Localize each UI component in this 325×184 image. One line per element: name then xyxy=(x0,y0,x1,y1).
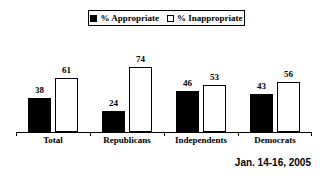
chart-legend: % Appropriate % Inappropriate xyxy=(88,10,245,26)
survey-date-annotation: Jan. 14-16, 2005 xyxy=(235,158,311,168)
bar-inappropriate-democrats: 56 xyxy=(277,40,300,132)
bar-rect-inappropriate xyxy=(277,82,300,132)
bar-rect-appropriate xyxy=(28,98,51,132)
category-label-total: Total xyxy=(43,136,63,145)
bar-value-label: 43 xyxy=(257,82,266,91)
bar-appropriate-democrats: 43 xyxy=(250,40,273,132)
category-axis: Total Republicans Independents Democrats xyxy=(16,136,312,150)
bar-value-label: 74 xyxy=(136,55,145,64)
bar-value-label: 46 xyxy=(183,79,192,88)
bar-appropriate-republicans: 24 xyxy=(102,40,125,132)
bar-value-label: 53 xyxy=(210,73,219,82)
plot-area: 38 61 24 74 46 xyxy=(16,40,312,133)
bar-group-total: 38 61 xyxy=(16,40,90,132)
category-label-independents: Independents xyxy=(175,136,227,145)
bar-value-label: 56 xyxy=(284,70,293,79)
bar-rect-appropriate xyxy=(176,91,199,132)
bar-value-label: 24 xyxy=(109,99,118,108)
bar-appropriate-independents: 46 xyxy=(176,40,199,132)
bar-rect-inappropriate xyxy=(55,78,78,132)
legend-label-appropriate: % Appropriate xyxy=(100,14,159,23)
bar-value-label: 38 xyxy=(35,86,44,95)
legend-label-inappropriate: % Inappropriate xyxy=(177,14,243,23)
bar-chart: % Appropriate % Inappropriate 38 61 xyxy=(0,0,325,184)
legend-swatch-inappropriate-icon xyxy=(167,15,174,22)
bar-inappropriate-republicans: 74 xyxy=(129,40,152,132)
bar-inappropriate-independents: 53 xyxy=(203,40,226,132)
legend-item-inappropriate: % Inappropriate xyxy=(167,14,243,23)
legend-item-appropriate: % Appropriate xyxy=(90,14,159,23)
bar-group-democrats: 43 56 xyxy=(238,40,312,132)
legend-swatch-appropriate-icon xyxy=(90,15,97,22)
bar-appropriate-total: 38 xyxy=(28,40,51,132)
bar-inappropriate-total: 61 xyxy=(55,40,78,132)
bar-value-label: 61 xyxy=(62,66,71,75)
bar-rect-appropriate xyxy=(102,111,125,132)
bar-group-republicans: 24 74 xyxy=(90,40,164,132)
category-label-democrats: Democrats xyxy=(254,136,295,145)
bar-rect-inappropriate xyxy=(203,85,226,132)
bar-rect-inappropriate xyxy=(129,67,152,132)
category-label-republicans: Republicans xyxy=(103,136,151,145)
bar-rect-appropriate xyxy=(250,94,273,132)
bar-group-independents: 46 53 xyxy=(164,40,238,132)
